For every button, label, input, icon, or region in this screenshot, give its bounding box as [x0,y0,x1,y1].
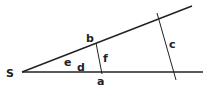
label-f: f [103,52,108,65]
segment-f [96,43,102,74]
geometry-diagram: S b a e d f c [0,0,204,89]
label-vertex-s: S [6,67,14,80]
label-e: e [64,56,71,69]
label-d: d [77,61,85,74]
label-c: c [169,38,176,51]
label-a: a [97,75,104,88]
label-b: b [86,32,94,45]
